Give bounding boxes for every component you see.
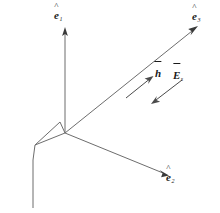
axis-label-e3: ^e3 [192,7,200,23]
vector-h-shaft [126,80,149,99]
horn-antenna-triangle [35,122,65,145]
vector-label-E-subscript: s [181,76,183,82]
diagram-canvas [0,0,220,213]
vector-label-h-glyph: h [155,67,161,79]
bar-accent-icon [154,61,161,62]
bar-accent-icon [173,63,180,64]
hat-accent-icon: ^ [54,2,58,11]
horn-antenna-feed-line [33,145,35,208]
axis-label-e2-subscript: 2 [171,178,174,184]
axis-e3-shaft [65,31,192,133]
vector-E [151,80,182,104]
axis-e1 [62,27,68,133]
axis-label-e2: ^e2 [166,168,174,184]
vector-E-shaft [156,80,182,100]
axis-label-e3-subscript: 3 [197,17,200,23]
axis-e2 [65,133,169,177]
vector-h-arrowhead [145,76,154,84]
vector-label-E-glyph: E [173,69,180,81]
horn-antenna [33,122,65,208]
vector-diagram-figure: ^e1 ^e3 ^e2 h Es [0,0,220,213]
axis-e2-shaft [65,133,163,173]
axis-label-e1-subscript: 1 [59,16,62,22]
vector-h [126,76,154,98]
vector-label-h: h [155,64,161,80]
hat-accent-icon: ^ [166,164,170,173]
axis-label-e1: ^e1 [54,6,62,22]
axis-e3-arrowhead [188,26,198,35]
hat-accent-icon: ^ [192,3,196,12]
vector-label-E: Es [173,66,183,82]
